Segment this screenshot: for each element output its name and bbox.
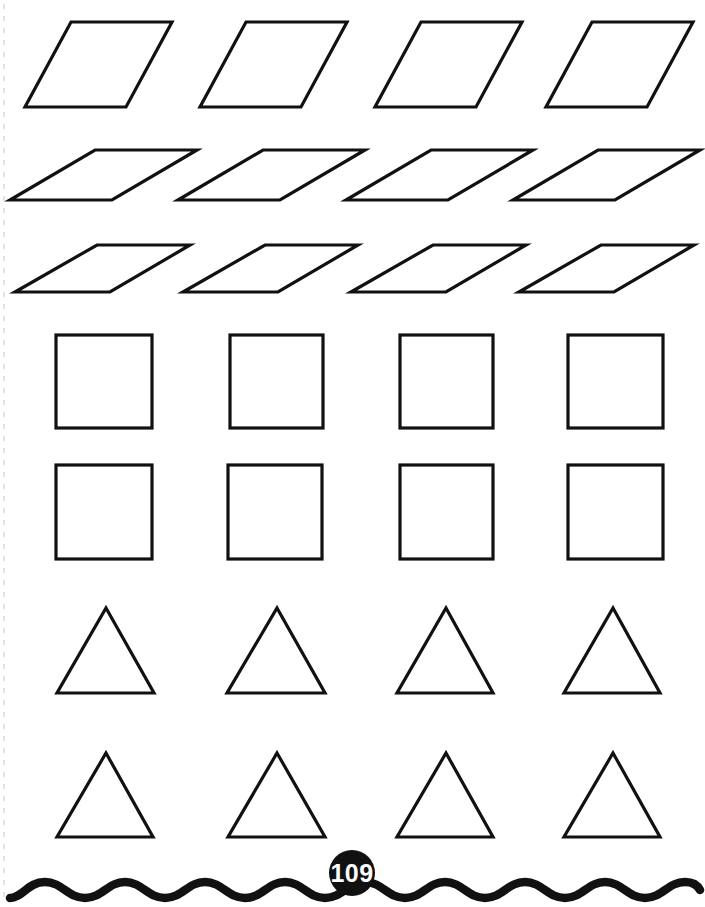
triangle-shape [397,753,493,837]
squares-row-1 [56,335,663,428]
triangles-row-2 [57,753,660,837]
parallelogram-shape [10,150,197,200]
triangles-row-1 [57,608,660,693]
square-shape [568,335,663,428]
squares-row-2 [56,465,663,559]
parallelogram-shape [178,150,365,200]
parallelogram-shape [15,245,190,292]
triangle-shape [57,753,153,837]
triangle-shape [57,608,154,693]
worksheet-canvas: 109 [0,0,705,907]
parallelogram-shape [375,22,522,107]
parallelogram-shape [183,245,358,292]
parallelograms-flat-row-2 [15,245,694,292]
square-shape [400,335,493,428]
parallelograms-steep-row [25,22,693,107]
square-shape [400,465,493,559]
parallelogram-shape [346,150,533,200]
triangle-shape [228,753,325,837]
parallelogram-shape [200,22,347,107]
parallelogram-shape [25,22,172,107]
square-shape [228,465,322,559]
footer-decoration: 109 [10,850,700,898]
square-shape [230,335,323,428]
parallelogram-shape [513,150,700,200]
square-shape [56,465,152,559]
parallelograms-flat-row-1 [10,150,700,200]
square-shape [568,465,663,559]
parallelogram-shape [519,245,694,292]
triangle-shape [564,753,660,837]
triangle-shape [397,608,493,693]
parallelogram-shape [546,22,693,107]
triangle-shape [227,608,325,693]
page-number-label: 109 [330,859,373,887]
triangle-shape [564,608,660,693]
parallelogram-shape [351,245,526,292]
worksheet-page: 109 [0,0,705,907]
square-shape [56,335,152,428]
